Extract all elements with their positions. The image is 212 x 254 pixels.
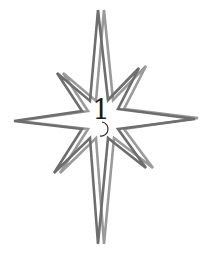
star-number-label: 1 <box>91 96 111 124</box>
star-diagram: 1 <box>0 0 212 254</box>
star-outline-dark <box>14 10 195 244</box>
